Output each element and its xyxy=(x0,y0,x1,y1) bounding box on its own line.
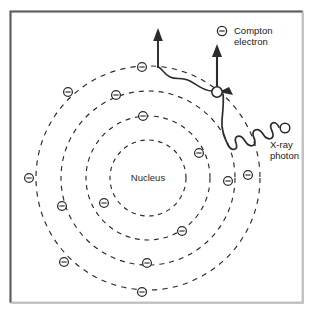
electron-marker xyxy=(224,177,233,186)
xray-photon-label-line2: photon xyxy=(270,150,299,161)
electron-marker xyxy=(112,91,121,100)
diagram-canvas: Nucleus xyxy=(0,0,321,323)
electron-marker xyxy=(64,88,73,97)
figure-background xyxy=(0,0,321,323)
electron-marker xyxy=(100,199,109,208)
electron-marker xyxy=(138,288,147,297)
collision-point-marker xyxy=(212,87,222,97)
electron-marker xyxy=(58,202,67,211)
electron-marker xyxy=(60,258,69,267)
electron-marker xyxy=(143,259,152,268)
electron-marker xyxy=(139,112,148,121)
electron-marker xyxy=(244,171,253,180)
compton-electron-label-line1: Compton xyxy=(234,25,273,36)
nucleus-label: Nucleus xyxy=(131,172,166,183)
compton-electron-legend-icon xyxy=(217,26,226,35)
xray-photon-label-line1: X-ray xyxy=(270,139,293,150)
compton-electron-label-line2: electron xyxy=(234,36,268,47)
electron-marker xyxy=(138,63,147,72)
electron-marker xyxy=(25,174,34,183)
electron-marker xyxy=(195,149,204,158)
electron-marker xyxy=(178,227,187,236)
photon-source-marker xyxy=(280,123,290,133)
compton-effect-figure: Nucleus xyxy=(0,0,321,323)
